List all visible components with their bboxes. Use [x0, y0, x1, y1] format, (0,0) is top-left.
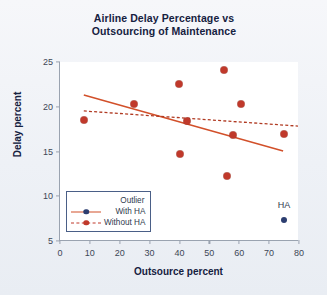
data-point	[175, 81, 182, 88]
legend-label-with-ha: With HA	[104, 206, 145, 217]
plot-area: HA 51015202501020304050607080 Outlier Wi…	[59, 62, 298, 241]
y-axis-label: Delay percent	[12, 70, 23, 180]
chart-title-line-2: Outsourcing of Maintenance	[28, 25, 300, 38]
legend-marker-with-ha-icon	[71, 207, 101, 216]
data-point	[281, 130, 288, 137]
data-point	[176, 151, 183, 158]
x-tick-mark	[239, 240, 240, 244]
x-tick-mark	[269, 240, 270, 244]
data-point	[229, 132, 236, 139]
point-annotation-ha: HA	[278, 200, 291, 210]
y-tick-mark	[56, 106, 60, 107]
legend-item-with-ha[interactable]: With HA	[71, 206, 145, 217]
x-tick-mark	[89, 240, 90, 244]
chart-figure: Airline Delay Percentage vs Outsourcing …	[0, 0, 327, 295]
legend-marker-without-ha-icon	[71, 218, 101, 227]
data-point	[281, 217, 287, 223]
data-point	[131, 101, 138, 108]
data-point	[183, 118, 190, 125]
data-point	[221, 67, 228, 74]
x-tick-mark	[119, 240, 120, 244]
legend-label-without-ha: Without HA	[104, 217, 145, 228]
x-tick-mark	[298, 240, 299, 244]
x-tick-mark	[209, 240, 210, 244]
y-tick-mark	[56, 61, 60, 62]
legend-item-without-ha[interactable]: Without HA	[71, 217, 145, 228]
y-tick-mark	[56, 151, 60, 152]
legend-header: Outlier	[71, 195, 145, 206]
data-point	[224, 172, 231, 179]
legend[interactable]: Outlier With HA Without HA	[66, 191, 151, 232]
x-axis-label: Outsource percent	[59, 266, 298, 277]
chart-title-line-1: Airline Delay Percentage vs	[28, 12, 300, 25]
x-tick-mark	[59, 240, 60, 244]
x-tick-mark	[179, 240, 180, 244]
data-point	[80, 117, 87, 124]
data-point	[237, 101, 244, 108]
fit-line-without-ha	[84, 111, 298, 126]
x-tick-mark	[149, 240, 150, 244]
y-tick-mark	[56, 196, 60, 197]
chart-title: Airline Delay Percentage vs Outsourcing …	[28, 12, 300, 38]
